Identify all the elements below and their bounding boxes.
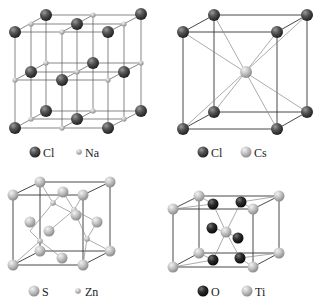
na-legend-label: Na bbox=[85, 146, 100, 160]
o-atom bbox=[233, 233, 244, 244]
o-legend-label: O bbox=[211, 285, 220, 299]
cl-atom bbox=[271, 123, 283, 135]
na-atom bbox=[43, 60, 48, 65]
s-atom bbox=[8, 190, 19, 201]
ti-atom bbox=[168, 262, 179, 273]
s-atom bbox=[105, 177, 116, 188]
ti-atom bbox=[194, 191, 205, 202]
ti-atom bbox=[274, 248, 285, 259]
s-atom bbox=[105, 246, 116, 257]
cl-atom bbox=[56, 74, 68, 86]
cl-atom bbox=[9, 26, 21, 38]
cs-atom bbox=[240, 66, 252, 78]
zns-panel: S Zn bbox=[8, 177, 116, 299]
cl-atom bbox=[71, 113, 83, 125]
s-atom bbox=[57, 253, 68, 264]
tio2-legend: O Ti bbox=[198, 285, 266, 299]
na-atom bbox=[74, 69, 79, 74]
na-atom bbox=[105, 77, 110, 82]
o-atom bbox=[208, 199, 219, 210]
na-atom bbox=[12, 77, 17, 82]
ti-atom bbox=[274, 191, 285, 202]
cs-legend-swatch bbox=[241, 147, 252, 158]
cl-atom bbox=[271, 26, 283, 38]
cl-atom bbox=[71, 18, 83, 30]
cscl-legend: Cl Cs bbox=[198, 146, 268, 160]
cl-atom bbox=[301, 9, 313, 21]
zn-atom bbox=[84, 236, 90, 242]
s-atom bbox=[71, 210, 82, 221]
ti-legend-swatch bbox=[242, 286, 253, 297]
s-legend-label: S bbox=[42, 285, 49, 299]
cl-atom bbox=[40, 105, 52, 117]
ti-legend-label: Ti bbox=[255, 285, 266, 299]
cl-atom bbox=[208, 9, 220, 21]
nacl-legend: Cl Na bbox=[30, 146, 100, 160]
zn-legend-label: Zn bbox=[85, 285, 98, 299]
cs-legend-label: Cs bbox=[254, 146, 267, 160]
tio2-panel: O Ti bbox=[168, 191, 285, 299]
na-legend-swatch bbox=[76, 149, 82, 155]
s-atom bbox=[25, 217, 36, 228]
cl-atom bbox=[40, 9, 52, 21]
nacl-panel: Cl Na bbox=[9, 8, 147, 160]
zns-legend: S Zn bbox=[29, 285, 99, 299]
ti-atom bbox=[248, 262, 259, 273]
zn-atom bbox=[50, 200, 56, 206]
cl-atom bbox=[102, 122, 114, 134]
o-atom bbox=[207, 223, 218, 234]
zn-atom bbox=[37, 238, 43, 244]
o-atom bbox=[208, 255, 219, 266]
na-atom bbox=[121, 116, 126, 121]
s-atom bbox=[44, 226, 55, 237]
cl-legend-label: Cl bbox=[211, 146, 223, 160]
cl-atom bbox=[135, 8, 147, 20]
s-atom bbox=[78, 260, 89, 271]
cl-legend-swatch bbox=[198, 147, 209, 158]
s-atom bbox=[35, 246, 46, 257]
s-atom bbox=[78, 190, 89, 201]
cl-atom bbox=[87, 57, 99, 69]
cl-atom bbox=[118, 66, 130, 78]
na-atom bbox=[90, 108, 95, 113]
s-legend-swatch bbox=[29, 286, 40, 297]
ti-atom bbox=[221, 227, 232, 238]
na-atom bbox=[28, 116, 33, 121]
s-atom bbox=[35, 177, 46, 188]
cl-atom bbox=[135, 105, 147, 117]
cscl-panel: Cl Cs bbox=[177, 9, 313, 160]
nacl-atoms bbox=[9, 8, 147, 134]
cl-legend-swatch bbox=[30, 147, 41, 158]
cl-atom bbox=[25, 66, 37, 78]
cl-atom bbox=[177, 123, 189, 135]
ti-atom bbox=[168, 204, 179, 215]
cl-atom bbox=[301, 106, 313, 118]
cl-atom bbox=[102, 26, 114, 38]
s-atom bbox=[92, 217, 103, 228]
o-atom bbox=[236, 197, 247, 208]
ti-atom bbox=[248, 204, 259, 215]
s-atom bbox=[8, 260, 19, 271]
crystal-structures-figure: Cl Na bbox=[0, 0, 315, 305]
cl-legend-label: Cl bbox=[43, 146, 55, 160]
na-atom bbox=[28, 21, 33, 26]
zn-legend-swatch bbox=[75, 288, 81, 294]
na-atom bbox=[121, 21, 126, 26]
cl-atom bbox=[177, 26, 189, 38]
o-atom bbox=[235, 253, 246, 264]
na-atom bbox=[59, 125, 64, 130]
na-atom bbox=[59, 29, 64, 34]
o-legend-swatch bbox=[198, 286, 209, 297]
cl-atom bbox=[9, 122, 21, 134]
cl-atom bbox=[208, 106, 220, 118]
s-atom bbox=[58, 187, 69, 198]
na-atom bbox=[90, 12, 95, 17]
na-atom bbox=[138, 60, 143, 65]
ti-atom bbox=[194, 248, 205, 259]
